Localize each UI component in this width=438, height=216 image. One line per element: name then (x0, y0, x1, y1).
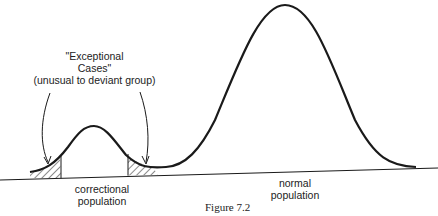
annotation-line-2: Cases" (22, 62, 167, 74)
normal-line-1: normal (265, 177, 325, 189)
annotation-line-1: "Exceptional (22, 50, 167, 62)
right-arrow (140, 92, 148, 162)
annotation-line-3: (unusual to deviant group) (22, 74, 167, 86)
figure-caption: Figure 7.2 (205, 201, 250, 213)
baseline-axis (0, 168, 438, 180)
population-curve (30, 5, 416, 172)
exceptional-cases-label: "Exceptional Cases" (unusual to deviant … (22, 50, 167, 86)
normal-population-label: normal population (265, 177, 325, 201)
correctional-population-label: correctional population (62, 183, 142, 207)
left-arrow (42, 93, 50, 162)
right-arrow-head (142, 156, 149, 164)
correctional-line-1: correctional (62, 183, 142, 195)
correctional-line-2: population (62, 195, 142, 207)
normal-line-2: population (265, 189, 325, 201)
